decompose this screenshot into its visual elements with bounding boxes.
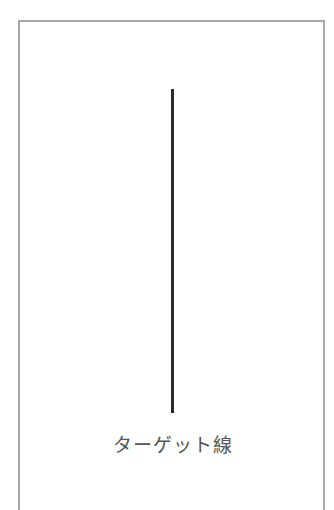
- target-line: [171, 89, 174, 413]
- target-line-caption: ターゲット線: [0, 430, 334, 457]
